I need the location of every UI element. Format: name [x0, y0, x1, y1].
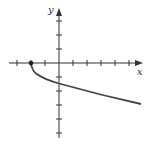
- start-point-dot: [29, 61, 34, 66]
- x-axis-label: x: [137, 66, 143, 77]
- graph: y x: [0, 0, 150, 150]
- y-axis-arrow-icon: [56, 8, 62, 16]
- y-axis-label: y: [47, 4, 54, 15]
- function-curve: [31, 63, 141, 104]
